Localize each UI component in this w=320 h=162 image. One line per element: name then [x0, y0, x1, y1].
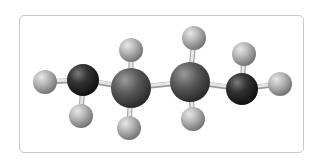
molecule-diagram — [0, 0, 320, 162]
hydrogen-atom-H5 — [182, 26, 206, 50]
hydrogen-atom-H8 — [268, 72, 292, 96]
hydrogen-atom-H2 — [69, 104, 93, 128]
carbon-atom-C3 — [170, 62, 210, 102]
hydrogen-atom-H3 — [119, 38, 143, 62]
hydrogen-atom-H6 — [181, 107, 205, 131]
carbon-atom-C2 — [111, 68, 151, 108]
carbon-atom-C4 — [226, 73, 258, 105]
carbon-atom-C1 — [67, 64, 99, 96]
hydrogen-atom-H4 — [117, 116, 141, 140]
hydrogen-atom-H1 — [33, 70, 57, 94]
hydrogen-atom-H7 — [232, 42, 256, 66]
